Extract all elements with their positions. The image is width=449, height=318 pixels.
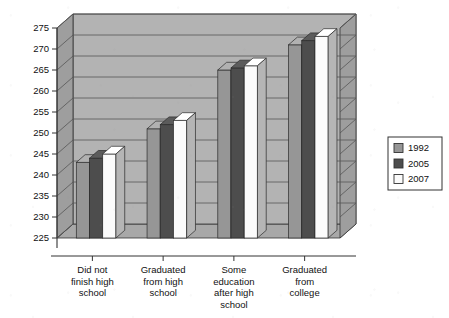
y-axis-tick-label: 255 bbox=[33, 106, 49, 117]
bar-side-2007-cat3 bbox=[328, 29, 337, 238]
bar-front-2007-cat1 bbox=[173, 120, 186, 238]
legend-swatch-2005[interactable] bbox=[394, 159, 403, 168]
y-axis-tick-label: 250 bbox=[33, 127, 49, 138]
bar-front-1992-cat2 bbox=[218, 70, 231, 238]
legend-label-2005: 2005 bbox=[408, 158, 429, 169]
bar-front-2005-cat1 bbox=[160, 125, 173, 238]
bar-side-2007-cat1 bbox=[187, 113, 196, 238]
bar-chart: 225230235240245250255260265270275Did not… bbox=[0, 0, 449, 318]
y-axis-tick-label: 225 bbox=[33, 232, 49, 243]
legend-label-1992: 1992 bbox=[408, 142, 429, 153]
bar-front-1992-cat3 bbox=[289, 45, 302, 238]
bar-front-2007-cat3 bbox=[315, 36, 328, 238]
legend-swatch-2007[interactable] bbox=[394, 175, 403, 184]
x-axis-category-label: after high bbox=[214, 287, 254, 298]
y-axis-tick-label: 275 bbox=[33, 22, 49, 33]
x-axis-category-label: from bbox=[295, 276, 314, 287]
x-axis-category-label: Some bbox=[221, 264, 246, 275]
bar-side-2007-cat0 bbox=[116, 146, 125, 238]
bar-front-2005-cat3 bbox=[302, 41, 315, 238]
legend-label-2007: 2007 bbox=[408, 173, 429, 184]
y-axis-tick-label: 235 bbox=[33, 190, 49, 201]
x-axis-category-label: Graduated bbox=[282, 264, 327, 275]
x-axis-category-label: from high bbox=[143, 276, 183, 287]
x-axis-category-label: school bbox=[220, 299, 247, 310]
x-axis-category-label: education bbox=[213, 276, 254, 287]
chart-canvas: 225230235240245250255260265270275Did not… bbox=[0, 0, 449, 318]
x-axis-category-label: school bbox=[149, 287, 176, 298]
y-axis-tick-label: 245 bbox=[33, 148, 49, 159]
x-axis-category-label: school bbox=[79, 287, 106, 298]
bar-front-2007-cat2 bbox=[244, 66, 257, 238]
legend-swatch-1992[interactable] bbox=[394, 144, 403, 153]
bar-side-2007-cat2 bbox=[257, 58, 266, 238]
y-axis-tick-label: 270 bbox=[33, 43, 49, 54]
bar-front-2005-cat2 bbox=[231, 68, 244, 238]
y-axis-tick-label: 240 bbox=[33, 169, 49, 180]
bar-front-2005-cat0 bbox=[90, 158, 103, 238]
x-axis-category-label: Did not bbox=[77, 264, 107, 275]
y-axis-tick-label: 230 bbox=[33, 211, 49, 222]
bar-front-1992-cat1 bbox=[147, 129, 160, 238]
x-axis-category-label: finish high bbox=[71, 276, 114, 287]
bar-front-1992-cat0 bbox=[76, 162, 89, 238]
y-axis-tick-label: 260 bbox=[33, 85, 49, 96]
y-axis-tick-label: 265 bbox=[33, 64, 49, 75]
x-axis-category-label: Graduated bbox=[141, 264, 186, 275]
x-axis-category-label: college bbox=[290, 287, 320, 298]
bar-front-2007-cat0 bbox=[103, 154, 116, 238]
